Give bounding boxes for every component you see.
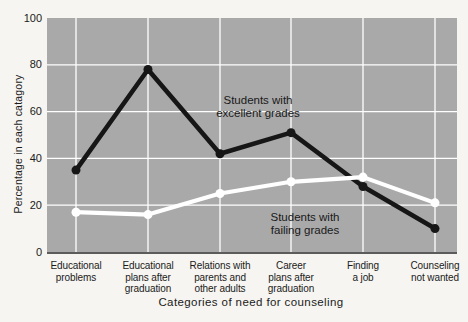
x-axis-category-label: Counseling not wanted <box>410 260 459 283</box>
x-axis-category-labels: Educational problemsEducational plans af… <box>0 260 468 300</box>
series-label-failing-grades: Students with failing grades <box>270 211 339 237</box>
x-axis-category-label: Educational plans after graduation <box>122 260 173 295</box>
y-tick-label: 0 <box>0 246 42 259</box>
chart-canvas <box>47 18 457 252</box>
plot-area: Students with excellent grades Students … <box>47 18 457 254</box>
series-label-excellent-grades: Students with excellent grades <box>216 94 300 120</box>
y-tick-label: 40 <box>0 152 42 165</box>
x-axis-title: Categories of need for counseling <box>158 296 343 308</box>
x-axis-category-label: Educational problems <box>50 260 101 283</box>
y-tick-label: 100 <box>0 12 42 25</box>
x-axis-category-label: Career plans after graduation <box>268 260 314 295</box>
y-axis-title: Percentage in each catagory <box>12 74 24 214</box>
y-tick-label: 20 <box>0 199 42 212</box>
x-axis-category-label: Relations with parents and other adults <box>190 260 251 295</box>
x-axis-category-label: Finding a job <box>347 260 379 283</box>
y-tick-label: 80 <box>0 58 42 71</box>
y-tick-label: 60 <box>0 105 42 118</box>
counseling-needs-line-chart: Percentage in each catagory 020406080100… <box>0 0 468 322</box>
